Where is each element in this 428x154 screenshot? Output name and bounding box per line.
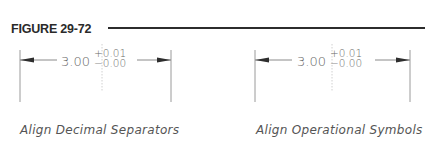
caption-align-operational-symbols: Align Operational Symbols (256, 123, 423, 137)
dimension-symbol-aligned: 3.00 +0.01 −0.00 (255, 44, 410, 102)
arrowhead-left-icon (20, 58, 34, 63)
arrowhead-right-icon (157, 58, 171, 63)
caption-align-decimal-separators: Align Decimal Separators (20, 123, 179, 137)
lower-tolerance: −0.00 (330, 57, 362, 69)
arrowhead-right-icon (396, 58, 410, 63)
basic-dimension-value: 3.00 (61, 54, 90, 69)
basic-dimension-value: 3.00 (297, 54, 326, 69)
lower-tolerance: −0.00 (94, 57, 126, 69)
dimension-decimal-aligned: 3.00 +0.01 −0.00 (20, 44, 171, 102)
arrowhead-left-icon (255, 58, 269, 63)
